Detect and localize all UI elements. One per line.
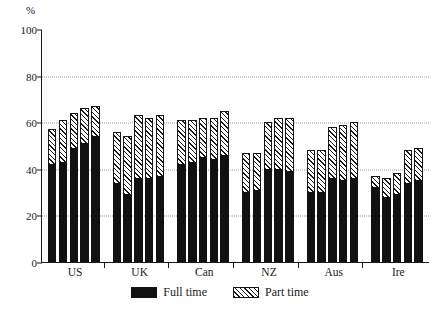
bar-segment-full-time [350, 178, 358, 262]
bar-segment-full-time [317, 192, 325, 262]
legend-item-part-time: Part time [233, 286, 309, 298]
y-axis-unit-label: % [26, 4, 35, 16]
bar-segment-part-time [350, 122, 358, 178]
bar-segment-part-time [307, 150, 315, 192]
bar [253, 153, 261, 262]
bar-segment-full-time [134, 178, 142, 262]
bar-segment-full-time [220, 155, 228, 262]
plot-area: 020406080100 [41, 30, 429, 263]
bar [113, 132, 121, 262]
bar-segment-part-time [123, 136, 131, 194]
stacked-bar-chart: % 020406080100 USUKCanNZAusIre Full time… [0, 0, 440, 309]
bar-segment-full-time [382, 197, 390, 262]
bar [242, 153, 250, 263]
bar [145, 118, 153, 262]
bar [339, 125, 347, 262]
bar [91, 106, 99, 262]
bar-segment-full-time [123, 194, 131, 262]
legend-label-full-time: Full time [163, 286, 207, 298]
bar-segment-part-time [145, 118, 153, 179]
bar-segment-part-time [253, 153, 261, 190]
y-tick-label-20: 20 [26, 210, 42, 222]
bar-segment-full-time [393, 194, 401, 262]
bar-segment-part-time [134, 115, 142, 178]
bar-segment-part-time [382, 178, 390, 197]
x-axis-label-us: US [68, 266, 83, 278]
bar-segment-full-time [80, 143, 88, 262]
bar-segment-full-time [339, 180, 347, 262]
bar-segment-full-time [210, 159, 218, 262]
bar [393, 173, 401, 262]
bar-group-ire [371, 30, 427, 262]
bar-segment-full-time [264, 169, 272, 262]
hatched-swatch [233, 287, 259, 298]
bar-segment-full-time [59, 162, 67, 262]
x-axis-label-can: Can [195, 266, 214, 278]
bar [134, 115, 142, 262]
bar-segment-part-time [156, 115, 164, 176]
bar-segment-full-time [307, 192, 315, 262]
bar-segment-part-time [80, 108, 88, 143]
bar-segment-part-time [188, 120, 196, 162]
bar [177, 120, 185, 262]
bar [220, 111, 228, 262]
bar [48, 129, 56, 262]
bar [404, 150, 412, 262]
bar-group-aus [307, 30, 363, 262]
bar [80, 108, 88, 262]
bar-segment-part-time [285, 118, 293, 172]
x-axis-labels: USUKCanNZAusIre [41, 266, 429, 284]
bar-segment-full-time [156, 176, 164, 262]
y-tick-label-80: 80 [26, 71, 42, 83]
bar-segment-full-time [414, 180, 422, 262]
bar-segment-full-time [371, 187, 379, 262]
bar-group-can [177, 30, 233, 262]
bar-segment-part-time [393, 173, 401, 194]
bar-segment-full-time [328, 178, 336, 262]
bar-segment-part-time [328, 127, 336, 178]
bar [70, 113, 78, 262]
bar-group-nz [242, 30, 298, 262]
bar-segment-full-time [48, 164, 56, 262]
bar-segment-part-time [113, 132, 121, 183]
bar [317, 150, 325, 262]
bar [188, 120, 196, 262]
x-tick-mark-1 [104, 263, 105, 268]
bar-segment-part-time [210, 118, 218, 160]
x-tick-mark-3 [233, 263, 234, 268]
x-tick-mark-4 [298, 263, 299, 268]
x-axis-label-uk: UK [131, 266, 148, 278]
bar-segment-part-time [404, 150, 412, 183]
bar [350, 122, 358, 262]
bar-groups [42, 30, 429, 262]
bar-segment-part-time [317, 150, 325, 192]
x-tick-mark-2 [168, 263, 169, 268]
bar [199, 118, 207, 262]
bar-segment-full-time [285, 171, 293, 262]
bar-segment-part-time [48, 129, 56, 164]
bar-group-uk [113, 30, 169, 262]
bar-segment-part-time [371, 176, 379, 188]
bar-segment-full-time [91, 136, 99, 262]
x-axis-label-ire: Ire [392, 266, 405, 278]
bar-group-us [48, 30, 104, 262]
bar-segment-part-time [274, 118, 282, 169]
bar-segment-part-time [199, 118, 207, 158]
legend-item-full-time: Full time [131, 286, 207, 298]
bar-segment-full-time [70, 148, 78, 262]
bar-segment-full-time [274, 169, 282, 262]
y-tick-label-100: 100 [21, 24, 43, 36]
bar [414, 148, 422, 262]
bar-segment-full-time [145, 178, 153, 262]
bar [285, 118, 293, 262]
bar-segment-full-time [242, 192, 250, 262]
bar-segment-part-time [264, 122, 272, 169]
bar-segment-part-time [414, 148, 422, 181]
bar-segment-full-time [404, 183, 412, 262]
y-tick-label-40: 40 [26, 164, 42, 176]
bar-segment-full-time [113, 183, 121, 262]
bar-segment-part-time [220, 111, 228, 155]
bar-segment-part-time [339, 125, 347, 181]
bar-segment-full-time [177, 164, 185, 262]
bar [307, 150, 315, 262]
